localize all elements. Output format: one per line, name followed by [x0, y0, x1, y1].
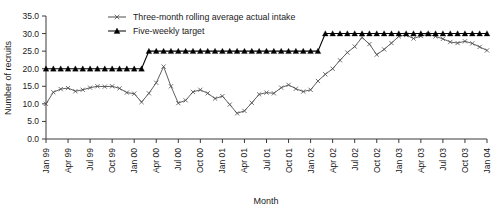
y-axis-ticks: 0.05.010.015.020.025.030.035.0	[22, 11, 46, 144]
legend-item: Three-month rolling average actual intak…	[108, 12, 295, 22]
x-tick-label: Jan 02	[306, 148, 316, 174]
legend-label: Three-month rolling average actual intak…	[133, 12, 295, 22]
y-tick-label: 10.0	[22, 99, 39, 109]
series-actual-intake	[44, 32, 489, 115]
x-tick-label: Apr 01	[239, 148, 249, 173]
x-tick-label: Jul 00	[173, 148, 183, 171]
x-tick-label: Oct 00	[195, 148, 205, 173]
x-tick-label: Apr 03	[416, 148, 426, 173]
x-tick-label: Jan 00	[129, 148, 139, 174]
x-tick-label: Jul 01	[262, 148, 272, 171]
x-tick-label: Jan 99	[41, 148, 51, 174]
x-axis-ticks: Jan 99Apr 99Jul 99Oct 99Jan 00Apr 00Jul …	[41, 139, 492, 174]
y-tick-label: 35.0	[22, 11, 39, 21]
x-tick-label: Oct 99	[107, 148, 117, 173]
chart-legend: Three-month rolling average actual intak…	[108, 12, 295, 36]
data-series-group	[43, 31, 490, 116]
y-tick-label: 15.0	[22, 81, 39, 91]
x-axis-title: Month	[253, 196, 278, 206]
y-tick-label: 5.0	[27, 116, 39, 126]
series-line	[46, 34, 487, 113]
x-tick-label: Jan 01	[217, 148, 227, 174]
series-five-weekly-target	[43, 31, 490, 72]
y-axis-title: Number of recruits	[3, 40, 13, 115]
x-tick-label: Oct 03	[460, 148, 470, 173]
y-tick-label: 0.0	[27, 134, 39, 144]
legend-item: Five-weekly target	[108, 26, 205, 36]
y-axis-title-group: Number of recruits	[3, 40, 13, 115]
recruits-intake-chart: Number of recruits 0.05.010.015.020.025.…	[0, 0, 495, 209]
x-tick-label: Jan 04	[482, 148, 492, 174]
legend-label: Five-weekly target	[133, 26, 205, 36]
y-tick-label: 25.0	[22, 46, 39, 56]
x-tick-label: Jul 99	[85, 148, 95, 171]
x-tick-label: Oct 01	[284, 148, 294, 173]
x-tick-label: Apr 99	[63, 148, 73, 173]
x-tick-label: Apr 00	[151, 148, 161, 173]
x-tick-label: Jul 02	[350, 148, 360, 171]
y-tick-label: 30.0	[22, 29, 39, 39]
x-tick-label: Apr 02	[328, 148, 338, 173]
y-tick-label: 20.0	[22, 64, 39, 74]
x-tick-label: Jul 03	[438, 148, 448, 171]
x-tick-label: Oct 02	[372, 148, 382, 173]
x-tick-label: Jan 03	[394, 148, 404, 174]
chart-canvas: Number of recruits 0.05.010.015.020.025.…	[0, 0, 495, 209]
